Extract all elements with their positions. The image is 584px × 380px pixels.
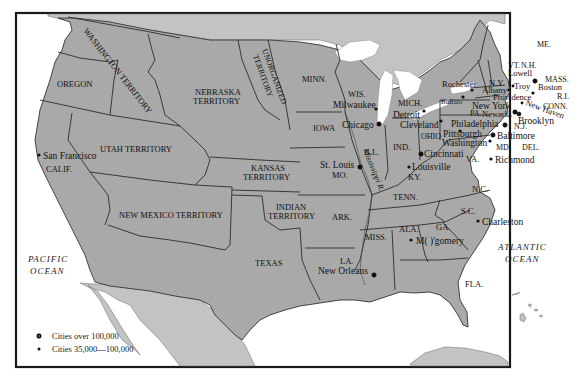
city-label-rochester: Rochester [442,79,476,89]
city-dot-washington [488,139,491,142]
city-dot-cleveland [439,119,442,122]
label-mich: MICH. [398,98,422,108]
city-label-troy: Troy [514,81,531,91]
city-label-cleveland: Cleveland [400,120,439,130]
label-md: MD. [496,143,511,152]
city-dot-chicago [377,122,381,126]
label-texas: TEXAS [255,258,283,268]
label-me: ME. [537,40,551,49]
city-label-washington: Washington [442,138,487,148]
city-label-cincinnati: Cincinnati [424,149,464,159]
label-pacific-2: OCEAN [30,266,65,276]
label-miss: MISS. [365,232,387,242]
label-ohio: OHIO [421,132,441,141]
city-dot-baltimore [491,133,495,137]
label-wis: WIS. [348,89,366,99]
label-kansas-2: TERRITORY [243,172,290,182]
city-dot-charleston [476,219,479,222]
label-atlantic-2: OCEAN [505,254,540,264]
legend-small-city-icon [38,348,41,351]
label-nc: N.C. [472,184,488,194]
city-label-baltimore: Baltimore [497,131,535,141]
city-label-brooklyn: Brooklyn [518,116,554,126]
city-label-boston: Boston [538,82,563,92]
label-oregon: OREGON [57,79,92,89]
city-label-lowell: Lowell [508,68,533,78]
city-label-louisville: Louisville [412,162,451,172]
city-label-buffalo: Buffalo [441,98,463,106]
city-label-san-francisco: San Francisco [43,151,97,161]
city-label-new-orleans: New Orleans [318,266,368,276]
city-dot-new-york [513,110,517,114]
city-dot-boston [533,79,537,83]
label-tenn: TENN. [393,192,418,202]
city-dot-newark [509,115,512,118]
city-dot-new-haven [521,102,524,105]
city-dot-new-orleans [372,273,376,277]
city-label-philadelphia: Philadelphia [451,119,499,129]
city-label-charleston: Charleston [482,217,523,227]
label-ga: GA. [436,222,450,232]
label-indian-2: TERRITORY [268,211,315,221]
legend-small-label: Cities 35,000—100,000 [52,344,133,354]
city-label-detroit: Detroit [393,110,420,120]
city-label-newark: Newark [482,109,510,119]
legend-large-label: Cities over 100,000 [52,331,119,341]
city-dot-philadelphia [503,123,507,127]
city-dot-san-francisco [37,153,40,156]
city-dot-montgomery [409,238,412,241]
city-dot-louisville [407,165,410,168]
city-dot-detroit [422,109,425,112]
city-label-chicago: Chicago [342,120,374,130]
label-minn: MINN. [302,74,327,84]
label-nebraska-2: TERRITORY [193,96,240,106]
label-mo: MO. [332,170,348,180]
label-sc: S.C. [461,206,476,216]
label-ala: ALA. [399,224,419,234]
label-calif: CALIF. [46,164,72,174]
label-ri: R.I. [557,92,569,101]
city-label-richmond: Richmond [495,155,535,165]
label-del: DEL. [522,143,540,152]
label-ky: KY. [408,172,421,182]
label-utah-territory: UTAH TERRITORY [100,144,172,154]
label-la: LA. [340,256,353,266]
label-atlantic-1: ATLANTIC [497,242,547,252]
label-va: VA. [466,154,479,164]
city-dot-cincinnati [419,152,423,156]
historical-us-map: WASHINGTON TERRITORY OREGON NEBRASKA TER… [0,0,584,380]
bahamas-islands [512,292,543,322]
city-label-montgomery: M( )'gomery [416,236,464,247]
city-dot-richmond [489,157,492,160]
city-dot-providence [531,91,534,94]
label-ind: IND. [393,142,410,152]
label-pacific-1: PACIFIC [27,254,68,264]
label-fla: FLA. [465,279,483,289]
label-iowa: IOWA [313,123,336,133]
city-label-milwaukee: Milwaukee [333,100,376,110]
label-ark: ARK. [332,212,352,222]
city-dot-st-louis [358,165,362,169]
city-label-st-louis: St. Louis [320,160,355,170]
label-new-mexico-territory: NEW MEXICO TERRITORY [119,210,223,220]
